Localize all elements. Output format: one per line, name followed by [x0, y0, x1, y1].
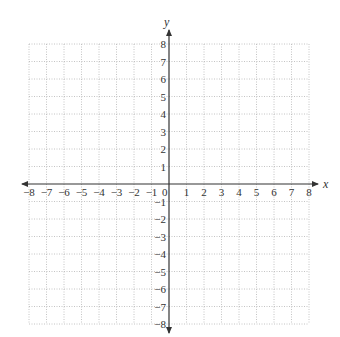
y-tick-label: −7 — [154, 301, 166, 313]
y-tick-label: 1 — [161, 161, 167, 173]
x-tick-label: 8 — [306, 186, 312, 198]
x-tick-label: −4 — [93, 186, 105, 198]
x-tick-label: −5 — [76, 186, 88, 198]
x-tick-label: 2 — [201, 186, 207, 198]
y-tick-label: −4 — [154, 248, 166, 260]
y-tick-label: −1 — [154, 196, 166, 208]
y-tick-label: 8 — [161, 38, 167, 50]
x-tick-label: 6 — [271, 186, 277, 198]
y-tick-label: 5 — [161, 91, 167, 103]
x-tick-label: −2 — [128, 186, 140, 198]
x-tick-label: 4 — [236, 186, 242, 198]
x-tick-label: 7 — [289, 186, 295, 198]
y-axis-label: y — [163, 15, 170, 29]
y-tick-label: 4 — [161, 108, 167, 120]
x-tick-label: −6 — [58, 186, 70, 198]
x-tick-label: 5 — [254, 186, 260, 198]
x-tick-label: 1 — [184, 186, 190, 198]
y-tick-label: −5 — [154, 266, 166, 278]
coordinate-plane: x y 0 −8−7−6−5−4−3−2−11234567887654321−1… — [0, 0, 340, 337]
y-tick-label: −8 — [154, 318, 166, 330]
x-tick-label: −8 — [23, 186, 35, 198]
y-tick-label: 7 — [161, 56, 167, 68]
y-tick-label: −2 — [154, 213, 166, 225]
y-tick-label: −6 — [154, 283, 166, 295]
y-tick-label: −3 — [154, 231, 166, 243]
y-tick-label: 2 — [161, 143, 167, 155]
x-tick-label: −7 — [41, 186, 53, 198]
x-tick-label: 3 — [219, 186, 225, 198]
x-tick-label: −3 — [111, 186, 123, 198]
y-tick-label: 3 — [161, 126, 167, 138]
x-axis-label: x — [322, 177, 329, 191]
y-tick-label: 6 — [161, 73, 167, 85]
